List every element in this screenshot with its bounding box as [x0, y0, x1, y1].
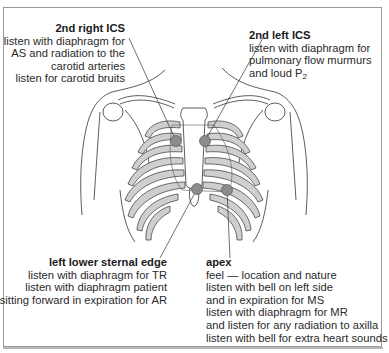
point-apex: [222, 185, 233, 196]
label-title: 2nd left ICS: [249, 29, 371, 42]
label-line: pulmonary flow murmurs: [249, 54, 371, 67]
label-line: listen with diaphragm for TR: [0, 269, 167, 282]
subscript: 2: [303, 72, 307, 81]
label-line: listen with diaphragm patient: [0, 281, 167, 294]
label-title: 2nd right ICS: [4, 22, 125, 35]
label-2nd-right-ics: 2nd right ICS listen with diaphragm for …: [4, 22, 125, 85]
label-line: carotid arteries: [4, 60, 125, 73]
label-2nd-left-ics: 2nd left ICS listen with diaphragm for p…: [249, 29, 371, 79]
label-left-lower-sternal-edge: left lower sternal edge listen with diap…: [0, 256, 167, 306]
point-left-lower-sternal-edge: [192, 184, 203, 195]
ribs-left: [203, 121, 263, 240]
label-line: listen with bell for extra heart sounds: [206, 332, 388, 345]
label-line: and in expiration for MS: [206, 294, 388, 307]
label-line: feel — location and nature: [206, 269, 388, 282]
label-line: sitting forward in expiration for AR: [0, 294, 167, 307]
label-line-text: and loud P: [249, 67, 303, 79]
label-line: listen with diaphragm for: [249, 42, 371, 55]
point-2nd-right-ics: [171, 136, 182, 147]
label-line: listen with diaphragm for: [4, 35, 125, 48]
label-apex: apex feel — location and nature listen w…: [206, 256, 388, 344]
point-2nd-left-ics: [200, 136, 211, 147]
label-line: listen with diaphragm for MR: [206, 306, 388, 319]
label-line: AS and radiation to the: [4, 47, 125, 60]
label-line: listen for carotid bruits: [4, 72, 125, 85]
label-line: and listen for any radiation to axilla: [206, 319, 388, 332]
label-line: and loud P2: [249, 67, 371, 80]
label-title: left lower sternal edge: [0, 256, 167, 269]
label-title: apex: [206, 256, 388, 269]
label-line: listen with bell on left side: [206, 281, 388, 294]
